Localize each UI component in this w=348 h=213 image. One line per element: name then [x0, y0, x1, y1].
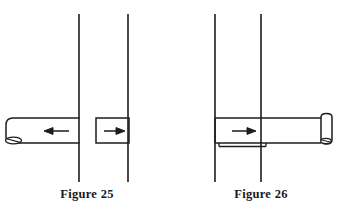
arrow-right-figure-26: [232, 128, 256, 135]
figure-25-panel: Figure 25: [0, 0, 174, 213]
figure-26-caption: Figure 26: [174, 187, 348, 202]
figure-26-plate-lines: [215, 14, 261, 182]
figure-25-drawing: [0, 0, 174, 188]
arrow-left-head: [44, 128, 53, 135]
figure-25-caption: Figure 25: [0, 187, 174, 202]
figure-26-panel: Figure 26: [174, 0, 348, 213]
arrow-right-head: [247, 128, 256, 135]
arrow-right-head: [116, 128, 125, 135]
figure-25-plate-lines: [79, 14, 128, 182]
bolt-shank-through: [215, 118, 321, 143]
cylinder-end-cap: [321, 114, 332, 145]
illustration-page: Figure 25: [0, 0, 348, 213]
figure-26-drawing: [174, 0, 348, 188]
arrow-left-figure-25: [44, 128, 69, 135]
arrow-right-figure-25: [104, 128, 125, 135]
